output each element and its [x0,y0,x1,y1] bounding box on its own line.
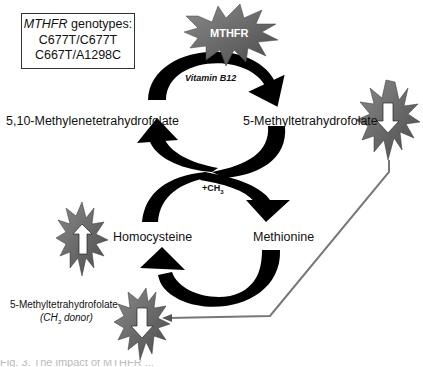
genotype-title: MTHFR genotypes: [22,17,134,33]
side-note-prefix: (CH [40,312,58,323]
starburst-bottom [114,288,170,360]
side-note-subtitle: (CH3 donor) [40,312,93,325]
side-note-title: 5-Methyltetrahydrofolate [10,299,118,310]
caption-text: Fig. 3. The impact of MTHFR ... [0,360,423,367]
node-methyltetrahydrofolate: 5-Methyltetrahydrofolate [243,114,378,128]
arrow-top-cycle [148,52,296,116]
figure-caption-partial: Fig. 3. The impact of MTHFR ... [0,360,423,367]
genotype-title-rest: genotypes: [68,17,133,31]
node-methionine: Methionine [253,230,314,244]
starburst-left [56,202,108,276]
genotype-box: MTHFR genotypes: C677T/C677T C667T/A1298… [21,13,135,69]
methyl-prefix: +CH [202,183,220,193]
node-methylenetetrahydrofolate: 5,10-Methylenetetrahydrofolate [6,114,179,128]
genotype-title-gene: MTHFR [24,17,68,31]
methyl-transfer-label: +CH3 [202,183,224,195]
arrow-lower-cross [142,172,290,222]
mthfr-badge-label: MTHFR [210,27,249,39]
side-note-suffix: donor) [61,312,93,323]
genotype-line-2: C667T/A1298C [22,48,134,64]
arrow-bottom-cycle [140,247,280,307]
vitamin-b12-label: Vitamin B12 [185,73,236,83]
methyl-subscript: 3 [220,189,223,195]
node-homocysteine: Homocysteine [113,230,192,244]
genotype-line-1: C677T/C677T [22,33,134,49]
